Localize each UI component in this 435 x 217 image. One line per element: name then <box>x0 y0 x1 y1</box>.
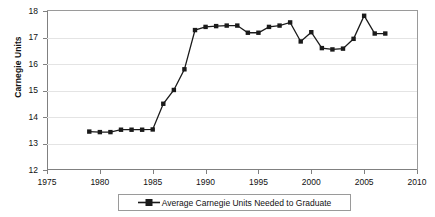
gridline <box>47 91 417 92</box>
x-tick-mark <box>47 170 48 174</box>
x-tick-label: 2000 <box>291 177 331 187</box>
y-tick-mark <box>43 11 47 12</box>
x-tick-mark <box>417 170 418 174</box>
x-tick-mark <box>311 170 312 174</box>
gridline <box>47 38 417 39</box>
y-tick-mark <box>43 38 47 39</box>
y-tick-mark <box>43 144 47 145</box>
legend: Average Carnegie Units Needed to Graduat… <box>118 194 351 211</box>
x-tick-label: 1985 <box>133 177 173 187</box>
y-tick-label: 17 <box>6 32 38 42</box>
y-tick-label: 13 <box>6 138 38 148</box>
x-tick-label: 1995 <box>238 177 278 187</box>
legend-entry-label: Average Carnegie Units Needed to Graduat… <box>162 198 331 208</box>
x-tick-label: 2005 <box>344 177 384 187</box>
x-tick-mark <box>206 170 207 174</box>
y-tick-label: 15 <box>6 85 38 95</box>
y-tick-label: 16 <box>6 59 38 69</box>
plot-right-border <box>417 10 418 171</box>
y-tick-label: 12 <box>6 165 38 175</box>
y-tick-mark <box>43 117 47 118</box>
gridline <box>47 64 417 65</box>
y-tick-label: 14 <box>6 112 38 122</box>
y-tick-mark <box>43 64 47 65</box>
x-tick-label: 2010 <box>397 177 435 187</box>
x-tick-mark <box>100 170 101 174</box>
y-tick-mark <box>43 91 47 92</box>
x-tick-mark <box>258 170 259 174</box>
x-tick-label: 1990 <box>186 177 226 187</box>
line-chart: Carnegie Units 12131415161718 1975198019… <box>0 0 435 217</box>
square-line-marker-icon <box>138 198 160 207</box>
gridline <box>47 144 417 145</box>
x-tick-label: 1975 <box>27 177 67 187</box>
x-tick-label: 1980 <box>80 177 120 187</box>
x-tick-mark <box>153 170 154 174</box>
x-tick-mark <box>364 170 365 174</box>
gridline <box>47 117 417 118</box>
y-tick-label: 18 <box>6 6 38 16</box>
